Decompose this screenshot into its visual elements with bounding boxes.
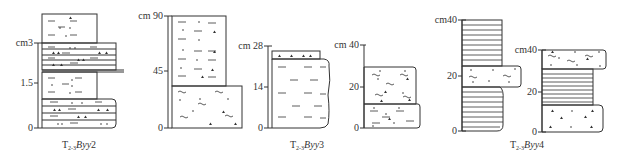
caption-subscript: 2-3 bbox=[296, 145, 304, 151]
column-by3-c bbox=[360, 45, 420, 128]
tick-label: 0 bbox=[120, 123, 163, 133]
layer-siltstone-middle bbox=[42, 72, 97, 99]
tick-label: 0 bbox=[220, 123, 263, 133]
tick-label: 20 bbox=[500, 87, 537, 97]
tick-label: 0 bbox=[500, 127, 537, 137]
column-by3-a bbox=[164, 16, 242, 128]
caption-subscript: 2-3 bbox=[68, 145, 76, 151]
layer-silty-sandstone bbox=[364, 104, 420, 128]
stratigraphic-figure: cm3 1.5 0 cm 90 45 0 cm 28 14 0 cm 40 20… bbox=[0, 0, 625, 159]
column-by4-b bbox=[538, 50, 606, 132]
tick-label: 20 bbox=[315, 82, 359, 92]
caption-number: 3 bbox=[319, 139, 324, 150]
layer-laminated-mudstone-upper bbox=[462, 20, 502, 66]
tick-label: cm 40 bbox=[315, 40, 359, 50]
tick-label: 0 bbox=[0, 123, 33, 133]
caption-name: By bbox=[524, 139, 535, 150]
caption-name: By bbox=[304, 139, 315, 150]
layer-laminated-mudstone-lower bbox=[462, 87, 503, 131]
caption-name: By bbox=[76, 139, 87, 150]
column-by4-a bbox=[458, 20, 521, 131]
tick-label: 45 bbox=[120, 66, 163, 76]
caption-number: 2 bbox=[91, 139, 96, 150]
caption-number: 4 bbox=[539, 139, 544, 150]
caption-by2: T2-3Byy2 bbox=[62, 140, 96, 151]
tick-label: 20 bbox=[420, 71, 457, 81]
tick-label: 1.5 bbox=[0, 78, 33, 88]
column-by2 bbox=[34, 14, 124, 128]
caption-by3: T2-3Byy3 bbox=[290, 140, 324, 151]
tick-label: cm 28 bbox=[220, 41, 263, 51]
tick-label: 14 bbox=[220, 82, 263, 92]
layer-wavy-sandstone-lens bbox=[462, 66, 521, 87]
caption-by4: T2-3Byy4 bbox=[510, 140, 544, 151]
tick-label: 0 bbox=[420, 126, 457, 136]
tick-label: cm3 bbox=[0, 38, 33, 48]
tick-label: 0 bbox=[315, 123, 359, 133]
layer-wavy-sandstone bbox=[364, 67, 416, 104]
tick-label: cm40 bbox=[420, 15, 457, 25]
tick-label: cm40 bbox=[500, 45, 537, 55]
caption-subscript: 2-3 bbox=[516, 145, 524, 151]
tick-label: cm 90 bbox=[120, 11, 163, 21]
